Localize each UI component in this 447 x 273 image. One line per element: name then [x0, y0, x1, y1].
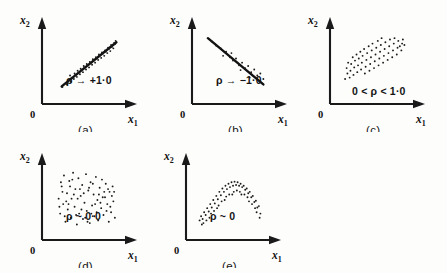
x-axis-arrow-icon [125, 100, 137, 108]
y-axis-label: x2 [19, 150, 30, 165]
panel-caption: (e) [222, 260, 237, 268]
x-axis-arrow-icon [269, 236, 281, 244]
scatter-panel-e: x2x10ρ ~ 0(e) [152, 140, 294, 268]
correlation-annotation: ρ → +1·0 [66, 74, 112, 86]
scatter-panel-d: x2x10ρ ~ 0·0(d) [8, 140, 150, 268]
x-axis-label: x1 [127, 249, 138, 264]
x-axis-label: x1 [277, 113, 288, 128]
origin-label: 0 [180, 109, 185, 120]
y-axis-arrow-icon [188, 17, 196, 29]
correlation-annotation: 0 < ρ < 1·0 [352, 85, 406, 97]
x-axis-label: x1 [271, 249, 282, 264]
panel-caption: (d) [78, 260, 93, 268]
panel-caption: (b) [228, 124, 243, 132]
y-axis-arrow-icon [182, 153, 190, 165]
panel-caption: (c) [366, 124, 380, 132]
x-axis-arrow-icon [275, 100, 287, 108]
x-axis-label: x1 [127, 113, 138, 128]
y-axis-label: x2 [163, 150, 174, 165]
x-axis-label: x1 [415, 113, 426, 128]
origin-label: 0 [318, 109, 323, 120]
y-axis-arrow-icon [38, 17, 46, 29]
scatter-points [344, 37, 405, 80]
correlation-annotation: ρ → −1·0 [216, 74, 262, 86]
y-axis-arrow-icon [38, 153, 46, 165]
correlation-annotation: ρ ~ 0·0 [66, 210, 101, 222]
y-axis-label: x2 [307, 14, 318, 29]
x-axis-arrow-icon [125, 236, 137, 244]
scatter-panel-c: x2x100 < ρ < 1·0(c) [296, 4, 438, 132]
scatter-panel-a: x2x10ρ → +1·0(a) [8, 4, 150, 132]
panel-caption: (a) [78, 124, 93, 132]
y-axis-label: x2 [19, 14, 30, 29]
origin-label: 0 [174, 245, 179, 256]
y-axis-label: x2 [169, 14, 180, 29]
y-axis-arrow-icon [326, 17, 334, 29]
correlation-scatter-figure: x2x10ρ → +1·0(a)x2x10ρ → −1·0(b)x2x100 <… [0, 0, 447, 273]
x-axis-arrow-icon [413, 100, 425, 108]
origin-label: 0 [30, 109, 35, 120]
correlation-annotation: ρ ~ 0 [210, 210, 235, 222]
origin-label: 0 [30, 245, 35, 256]
scatter-panel-b: x2x10ρ → −1·0(b) [158, 4, 300, 132]
